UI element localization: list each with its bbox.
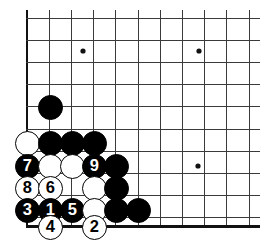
move-stone-6: 6	[38, 176, 63, 201]
move-stone-8: 8	[15, 176, 40, 201]
move-stone-7: 7	[15, 154, 40, 179]
move-stone-5: 5	[60, 198, 85, 223]
move-number-label: 3	[23, 201, 32, 218]
move-stone-2: 2	[82, 215, 107, 240]
move-stone-9: 9	[82, 154, 107, 179]
move-stone-4: 4	[38, 215, 63, 240]
stone-black	[126, 198, 151, 223]
stone-black	[104, 198, 129, 223]
stone-black	[60, 131, 85, 156]
move-number-label: 7	[23, 157, 32, 174]
move-number-label: 8	[23, 179, 32, 196]
stone-white	[38, 154, 63, 179]
move-number-label: 6	[46, 179, 55, 196]
stone-white	[15, 131, 40, 156]
move-stone-3: 3	[15, 198, 40, 223]
stone-black	[82, 131, 107, 156]
stone-black	[104, 176, 129, 201]
stone-black	[104, 154, 129, 179]
go-board-diagram: 798631542	[0, 0, 260, 250]
move-number-label: 2	[90, 218, 99, 235]
move-number-label: 4	[46, 218, 55, 235]
move-number-label: 9	[90, 157, 99, 174]
move-number-label: 5	[68, 201, 77, 218]
star-point	[195, 163, 200, 168]
stone-black	[38, 95, 63, 120]
stone-white	[60, 154, 85, 179]
star-point	[196, 48, 201, 53]
star-point	[80, 48, 85, 53]
stone-white	[82, 176, 107, 201]
stone-black	[38, 131, 63, 156]
